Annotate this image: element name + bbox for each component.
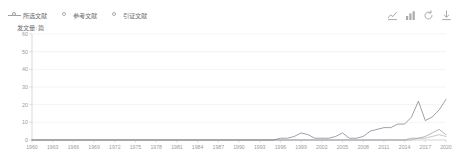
x-tick-label: 1984 bbox=[192, 144, 204, 150]
x-tick-label: 1999 bbox=[295, 144, 307, 150]
x-tick-label: 1975 bbox=[130, 144, 142, 150]
x-tick-label: 1987 bbox=[213, 144, 225, 150]
x-tick-label: 2005 bbox=[337, 144, 349, 150]
y-tick-label: 0 bbox=[25, 137, 28, 143]
download-icon[interactable] bbox=[441, 10, 452, 21]
x-tick-label: 2014 bbox=[399, 144, 411, 150]
x-tick-label: 1969 bbox=[88, 144, 100, 150]
literature-trend-chart-widget: 所选文献 参考文献 引证文献 bbox=[0, 0, 458, 160]
top-strip bbox=[0, 0, 458, 8]
data-series-3 bbox=[32, 135, 446, 140]
y-tick-label: 60 bbox=[22, 31, 28, 37]
bar-chart-icon[interactable] bbox=[405, 10, 416, 21]
x-tick-label: 1960 bbox=[26, 144, 38, 150]
x-tick-label: 1996 bbox=[275, 144, 287, 150]
x-tick-label: 2020 bbox=[440, 144, 452, 150]
legend-item-selected-literature[interactable]: 所选文献 bbox=[8, 11, 47, 20]
legend-marker-circle-icon bbox=[108, 11, 121, 20]
x-tick-label: 1978 bbox=[150, 144, 162, 150]
legend-item-citations[interactable]: 引证文献 bbox=[108, 11, 147, 20]
refresh-icon[interactable] bbox=[423, 10, 434, 21]
x-tick-label: 2017 bbox=[420, 144, 432, 150]
chart-legend: 所选文献 参考文献 引证文献 bbox=[8, 9, 147, 21]
legend-label: 参考文献 bbox=[73, 11, 97, 20]
x-tick-label: 1972 bbox=[109, 144, 121, 150]
y-tick-label: 50 bbox=[22, 49, 28, 55]
x-tick-label: 1963 bbox=[47, 144, 59, 150]
legend-marker-circle-icon bbox=[58, 11, 71, 20]
data-series-2 bbox=[32, 129, 446, 140]
data-series-1 bbox=[32, 99, 446, 140]
legend-item-references[interactable]: 参考文献 bbox=[58, 11, 97, 20]
line-chart-icon[interactable] bbox=[387, 10, 398, 21]
legend-marker-circle-icon bbox=[8, 11, 21, 20]
legend-label: 引证文献 bbox=[123, 11, 147, 20]
x-tick-label: 1966 bbox=[68, 144, 80, 150]
x-tick-label: 2008 bbox=[357, 144, 369, 150]
x-tick-label: 1993 bbox=[254, 144, 266, 150]
x-tick-label: 1981 bbox=[171, 144, 183, 150]
y-tick-label: 10 bbox=[22, 119, 28, 125]
chart-plot-area: 0102030405060196019631966196919721975197… bbox=[0, 30, 458, 158]
y-tick-label: 20 bbox=[22, 102, 28, 108]
chart-canvas: 0102030405060196019631966196919721975197… bbox=[0, 30, 458, 158]
x-tick-label: 2002 bbox=[316, 144, 328, 150]
y-tick-label: 30 bbox=[22, 84, 28, 90]
x-tick-label: 1990 bbox=[233, 144, 245, 150]
x-tick-label: 2011 bbox=[378, 144, 389, 150]
legend-label: 所选文献 bbox=[23, 11, 47, 20]
chart-toolbar bbox=[387, 8, 452, 22]
y-tick-label: 40 bbox=[22, 66, 28, 72]
